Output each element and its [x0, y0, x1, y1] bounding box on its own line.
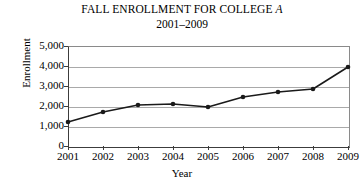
x-axis-tick-label: 2001: [48, 151, 88, 162]
data-point: [206, 105, 211, 110]
x-axis-label: Year: [0, 167, 364, 179]
data-point: [276, 90, 281, 95]
x-axis-tick-label: 2008: [293, 151, 333, 162]
chart-title-block: FALL ENROLLMENT FOR COLLEGE A 2001–2009: [0, 2, 364, 32]
x-axis-tick-label: 2009: [328, 151, 364, 162]
chart-title-text: FALL ENROLLMENT FOR COLLEGE: [81, 3, 275, 15]
x-axis-tick-label: 2004: [153, 151, 193, 162]
chart-title-college-letter: A: [276, 3, 283, 15]
series-line-path: [68, 67, 348, 122]
y-axis-tick-label: 3,000: [20, 80, 64, 91]
series-markers: [66, 65, 351, 125]
x-axis-tick-label: 2007: [258, 151, 298, 162]
y-axis-tick-label: 4,000: [20, 60, 64, 71]
x-axis-tick-label: 2006: [223, 151, 263, 162]
chart-subtitle: 2001–2009: [0, 17, 364, 32]
data-point: [346, 65, 351, 70]
y-axis-tick-label: 1,000: [20, 120, 64, 131]
chart-figure: FALL ENROLLMENT FOR COLLEGE A 2001–2009 …: [0, 0, 364, 190]
y-axis-tick-label: 2,000: [20, 100, 64, 111]
chart-title: FALL ENROLLMENT FOR COLLEGE A: [0, 2, 364, 17]
data-point: [311, 87, 316, 92]
y-axis-tick-label: 5,000: [20, 40, 64, 51]
data-point: [136, 103, 141, 108]
data-point: [171, 102, 176, 107]
data-point: [66, 120, 71, 125]
x-axis-tick-label: 2002: [83, 151, 123, 162]
data-point: [241, 95, 246, 100]
data-point: [101, 110, 106, 115]
x-axis-tick-label: 2005: [188, 151, 228, 162]
enrollment-line-series: [68, 46, 348, 146]
x-axis-tick-label: 2003: [118, 151, 158, 162]
